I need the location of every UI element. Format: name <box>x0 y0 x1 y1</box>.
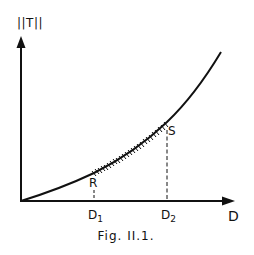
tick-label-d1-sub: 1 <box>97 214 103 224</box>
tick-label-d2-main: D <box>161 208 170 222</box>
x-axis-label: D <box>228 208 239 224</box>
tick-label-d1-main: D <box>88 208 97 222</box>
y-axis-arrow-icon <box>17 36 26 48</box>
y-axis <box>17 36 26 202</box>
x-axis-arrow-icon <box>222 197 235 206</box>
x-axis <box>20 197 235 206</box>
tick-label-d2-sub: 2 <box>170 214 176 224</box>
point-label-r: R <box>89 176 97 190</box>
tick-label-d2: D2 <box>161 208 176 224</box>
figure-canvas: ||T|| R S D1 D2 D Fig. II.1. <box>0 0 254 255</box>
curve <box>21 52 221 201</box>
tick-label-d1: D1 <box>88 208 103 224</box>
figure-caption: Fig. II.1. <box>98 229 155 243</box>
y-axis-label: ||T|| <box>17 16 43 30</box>
point-label-s: S <box>168 124 176 138</box>
